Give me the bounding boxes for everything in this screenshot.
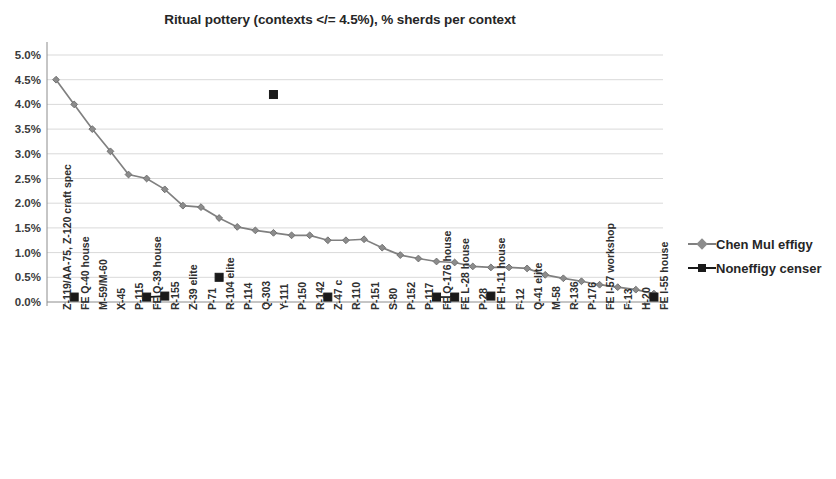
x-tick-label: R-155 [169,281,181,310]
data-point-square[interactable] [269,91,277,99]
data-point-diamond[interactable] [270,229,277,236]
data-point-diamond[interactable] [306,232,313,239]
chart-legend: Chen Mul effigy Noneffigy censer [688,232,836,280]
x-tick-label: Q-303 [260,281,272,310]
data-point-diamond[interactable] [343,237,350,244]
x-tick-label: Q-41 elite [532,263,544,310]
data-point-diamond[interactable] [487,264,494,271]
data-point-diamond[interactable] [379,244,386,251]
data-point-diamond[interactable] [234,224,241,231]
x-tick-label: F-13 [622,288,634,310]
x-tick-label: M-58 [550,286,562,310]
x-tick-label: P-152 [405,282,417,310]
legend-label: Chen Mul effigy [716,237,813,252]
x-tick-label: FE I-57 workshop [604,223,616,310]
x-tick-label: Z-39 elite [187,264,199,310]
data-point-diamond[interactable] [361,236,368,243]
x-tick-label: P-117 [423,283,435,310]
x-tick-label: FE L-28 house [459,238,471,310]
x-tick-label: P-176 [586,282,598,310]
x-tick-label: R-142 [314,281,326,310]
x-tick-label: S-80 [387,288,399,310]
legend-marker-diamond-icon [688,236,716,252]
legend-marker-square-icon [688,260,716,276]
x-tick-label: Y-111 [278,284,290,310]
x-tick-label: F-12 [514,288,526,310]
data-point-diamond[interactable] [433,258,440,265]
x-tick-label: R-136 [568,281,580,310]
x-tick-label: P-71 [206,288,218,310]
x-tick-label: FE Q-176 house [441,231,453,310]
x-tick-label: Z-47 c [332,280,344,310]
x-tick-label: FE H-11 house [495,238,507,310]
data-point-diamond[interactable] [288,232,295,239]
x-tick-label: M-59/M-60 [97,259,109,310]
data-point-diamond[interactable] [560,275,567,282]
data-point-diamond[interactable] [524,265,531,272]
legend-item-noneffigy-censer[interactable]: Noneffigy censer [688,256,836,280]
x-tick-label: Z-119/AA-75, Z-120 craft spec [61,164,73,310]
series-line [56,80,654,294]
x-tick-label: P-150 [296,282,308,310]
x-tick-label: FE Q-39 house [151,236,163,310]
data-point-square[interactable] [215,273,223,281]
legend-label: Noneffigy censer [716,261,821,276]
x-tick-label: H-20 [640,287,652,310]
x-tick-label: FE I-55 house [658,242,670,310]
x-tick-label: P-114 [242,283,254,310]
x-tick-label: P-115 [133,283,145,310]
x-tick-label: FE Q-40 house [79,236,91,310]
x-tick-label: R-104 elite [224,257,236,310]
data-point-diamond[interactable] [415,255,422,262]
x-tick-label: X-45 [115,288,127,310]
x-tick-label: P-28 [477,288,489,310]
chart-container: Ritual pottery (contexts </= 4.5%), % sh… [0,0,836,479]
x-tick-label: R-110 [350,282,362,310]
legend-item-chen-mul-effigy[interactable]: Chen Mul effigy [688,232,836,256]
x-tick-label: P-151 [369,282,381,310]
data-point-diamond[interactable] [324,237,331,244]
